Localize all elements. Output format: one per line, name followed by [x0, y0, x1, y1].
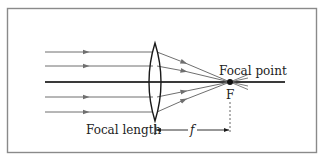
focal-length-label: Focal length [86, 123, 162, 137]
focal-point-symbol: F [226, 88, 234, 102]
focal-point-dot [227, 79, 233, 85]
lens-diagram: Focal point F f Focal length [0, 0, 322, 159]
focal-point-label: Focal point [219, 64, 287, 78]
diagram-border [8, 9, 317, 153]
